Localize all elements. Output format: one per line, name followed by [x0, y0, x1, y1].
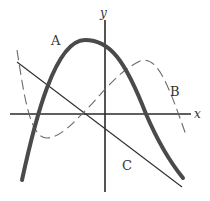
x-axis-label: x — [194, 107, 201, 121]
y-axis-label: y — [99, 6, 107, 20]
graph: x y A B C — [0, 0, 210, 201]
curve-a-label: A — [50, 33, 61, 48]
curve-c-label: C — [122, 158, 132, 173]
curve-b — [17, 50, 186, 138]
curve-b-label: B — [170, 84, 180, 99]
curve-c — [17, 62, 182, 187]
curve-a — [22, 40, 183, 180]
